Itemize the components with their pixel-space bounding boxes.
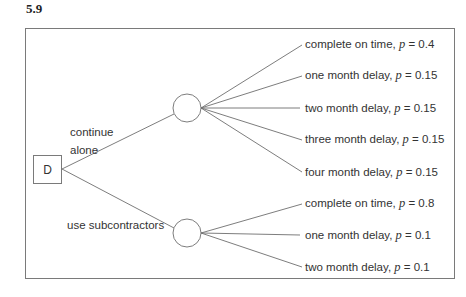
equals-sign: = [409,133,422,145]
outcome-line [201,108,302,172]
prob-value: 0.15 [416,166,438,178]
outcome-label: four month delay, p = 0.15 [305,165,438,179]
prob-value: 0.1 [414,261,430,273]
outcome-text: three month delay, [305,133,403,145]
outcome-label: complete on time, p = 0.4 [305,37,434,51]
prob-value: 0.15 [414,102,436,114]
chance-node-use-subcontractors [173,219,201,247]
branch-label-use-subcontractors: use subcontractors [67,218,164,232]
outcome-text: one month delay, [305,229,396,241]
outcome-text: one month delay, [305,69,396,81]
outcome-label: three month delay, p = 0.15 [305,132,444,146]
outcome-line [201,233,300,235]
equals-sign: = [402,229,415,241]
decision-node-label: D [43,163,52,177]
outcome-text: four month delay, [305,166,396,178]
outcome-line [201,233,302,267]
chance-node-continue-alone [173,94,201,122]
decision-node: D [33,155,62,184]
outcome-label: complete on time, p = 0.8 [305,196,434,210]
prob-value: 0.15 [415,69,437,81]
branch-label-alone: alone [70,143,98,157]
outcome-label: one month delay, p = 0.1 [305,228,431,242]
equals-sign: = [402,166,415,178]
equals-sign: = [405,38,418,50]
outcome-line [201,45,302,108]
outcome-text: two month delay, [305,261,394,273]
prob-value: 0.8 [418,197,434,209]
prob-value: 0.1 [415,229,431,241]
outcome-label: two month delay, p = 0.15 [305,101,436,115]
branch-line-continue-alone [62,114,174,169]
outcome-line [201,204,302,233]
branch-label-continue: continue [70,125,113,139]
outcome-text: two month delay, [305,102,394,114]
equals-sign: = [405,197,418,209]
prob-value: 0.15 [422,133,444,145]
equals-sign: = [402,69,415,81]
outcome-line [201,76,302,108]
equals-sign: = [401,102,414,114]
outcome-label: two month delay, p = 0.1 [305,260,430,274]
outcome-text: complete on time, [305,197,399,209]
outcome-line [201,108,302,140]
prob-value: 0.4 [418,38,434,50]
outcome-text: complete on time, [305,38,399,50]
equals-sign: = [401,261,414,273]
outcome-label: one month delay, p = 0.15 [305,68,437,82]
